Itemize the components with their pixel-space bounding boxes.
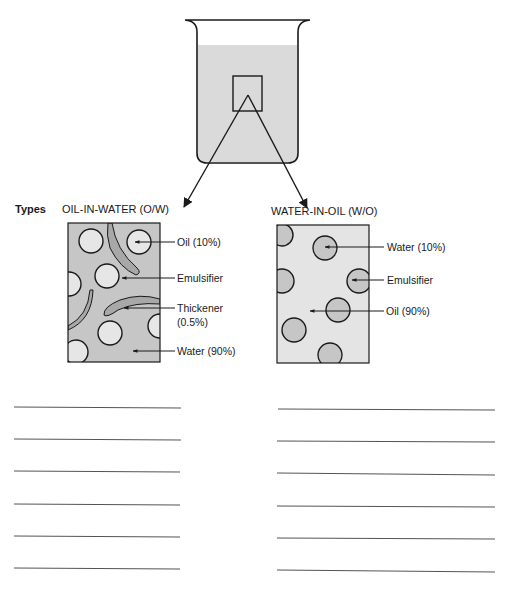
ow-label-thickener: Thickener [177, 302, 223, 314]
oil-droplet [57, 272, 81, 296]
ow-emulsion-box [57, 223, 175, 364]
oil-droplet [98, 321, 122, 345]
water-droplet [270, 269, 294, 293]
water-droplet [326, 298, 350, 322]
answer-line [277, 570, 495, 572]
answer-line [14, 407, 181, 408]
answer-line [278, 409, 495, 410]
ow-label-water: Water (90%) [177, 345, 236, 357]
answer-line [14, 504, 180, 505]
ow-title: OIL-IN-WATER (O/W) [62, 203, 169, 215]
oil-droplet [95, 264, 119, 288]
ow-label-thickener-pct: (0.5%) [177, 316, 208, 328]
ow-label-oil: Oil (10%) [177, 236, 221, 248]
ow-label-emulsifier: Emulsifier [177, 272, 223, 284]
wo-label-water: Water (10%) [387, 241, 446, 253]
beaker [184, 20, 310, 208]
answer-line [277, 441, 495, 442]
water-droplet [313, 236, 337, 260]
oil-droplet [79, 229, 103, 253]
wo-label-oil: Oil (90%) [386, 305, 430, 317]
answer-line [14, 471, 180, 472]
answer-line [277, 538, 495, 539]
wo-title: WATER-IN-OIL (W/O) [271, 205, 378, 217]
wo-emulsion-box [270, 224, 384, 367]
water-droplet [271, 224, 293, 246]
types-label: Types [15, 203, 46, 215]
answer-line [14, 439, 181, 440]
answer-lines-right [277, 409, 495, 572]
water-droplet [347, 269, 371, 293]
answer-lines-left [14, 407, 181, 569]
emulsion-diagram [0, 0, 512, 593]
water-droplet [282, 318, 306, 342]
answer-line [14, 568, 180, 569]
beaker-liquid [198, 45, 297, 162]
answer-line [14, 536, 180, 537]
answer-line [277, 506, 495, 507]
wo-label-emulsifier: Emulsifier [387, 274, 433, 286]
answer-line [277, 473, 495, 475]
